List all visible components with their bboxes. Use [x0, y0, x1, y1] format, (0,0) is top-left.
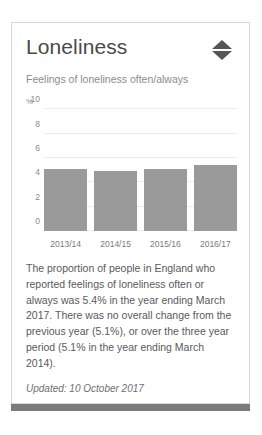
- chart-bars: [44, 109, 237, 231]
- bar-slot: [44, 109, 87, 231]
- y-axis-tick-label: 6: [35, 143, 40, 153]
- page-title: Loneliness: [26, 35, 127, 58]
- card-content: Loneliness Feelings of loneliness often/…: [12, 23, 249, 394]
- card-header: Loneliness: [26, 35, 235, 63]
- card-subtitle: Feelings of loneliness often/always: [26, 72, 206, 87]
- y-axis-tick-label: 4: [35, 167, 40, 177]
- y-axis-tick-label: 10: [31, 94, 40, 104]
- x-axis-tick-label: 2015/16: [144, 239, 187, 249]
- y-axis-tick-label: 0: [35, 216, 40, 226]
- bar-slot: [194, 109, 237, 231]
- loneliness-card: Loneliness Feelings of loneliness often/…: [11, 22, 250, 404]
- x-axis-tick-label: 2014/15: [94, 239, 137, 249]
- card-body-text: The proportion of people in England who …: [26, 261, 235, 371]
- loneliness-bar-chart: % 1086420 2013/142014/152015/162016/17: [26, 97, 237, 249]
- x-axis-tick-label: 2016/17: [194, 239, 237, 249]
- chart-bar[interactable]: [194, 165, 237, 231]
- bar-slot: [144, 109, 187, 231]
- chart-bar[interactable]: [144, 169, 187, 231]
- updated-timestamp: Updated: 10 October 2017: [26, 383, 235, 394]
- chart-bar[interactable]: [94, 171, 137, 231]
- x-axis-labels: 2013/142014/152015/162016/17: [44, 239, 237, 249]
- sort-diamond-icon[interactable]: [209, 37, 235, 63]
- y-axis-tick-label: 2: [35, 192, 40, 202]
- chart-bar[interactable]: [44, 169, 87, 231]
- x-axis-tick-label: 2013/14: [44, 239, 87, 249]
- y-axis-tick-label: 8: [35, 119, 40, 129]
- bar-slot: [94, 109, 137, 231]
- horizontal-scrollbar-thumb[interactable]: [11, 404, 250, 411]
- chart-plot-area: 1086420: [44, 109, 237, 231]
